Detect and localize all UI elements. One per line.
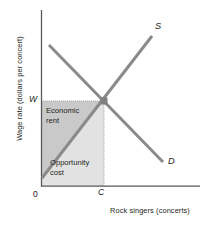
economic-rent-label-line1: Economic [46, 106, 79, 116]
y-axis-title: Wage rate (dollars per concert) [15, 14, 24, 164]
x-axis-title: Rock singers (concerts) [110, 206, 190, 215]
demand-curve-label: D [168, 156, 175, 166]
supply-demand-diagram: Wage rate (dollars per concert) Rock sin… [0, 0, 207, 226]
quantity-tick-label: C [98, 187, 104, 197]
economic-rent-label-line2: rent [46, 116, 79, 126]
opportunity-cost-label: Opportunity cost [50, 158, 89, 177]
equilibrium-point-marker [101, 98, 108, 105]
opportunity-cost-label-line1: Opportunity [50, 158, 89, 168]
economic-rent-label: Economic rent [46, 106, 79, 125]
opportunity-cost-label-line2: cost [50, 168, 89, 178]
supply-curve-label: S [155, 21, 161, 31]
origin-label: 0 [33, 189, 38, 199]
wage-tick-label: W [29, 94, 37, 104]
